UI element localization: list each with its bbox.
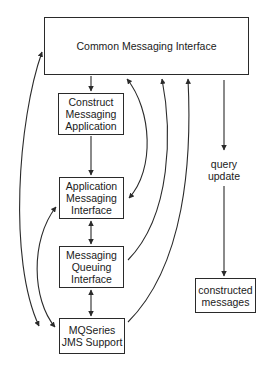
node-line: Messaging	[66, 249, 117, 261]
node-line: JMS Support	[62, 336, 123, 348]
label-line: query	[200, 158, 248, 170]
arrow-ami-jms-inner	[37, 207, 56, 327]
node-line: constructed	[198, 284, 252, 296]
node-line: MQSeries	[62, 324, 123, 336]
common-messaging-interface-box: Common Messaging Interface	[44, 17, 249, 75]
node-line: Application	[66, 180, 117, 192]
node-line: Application	[65, 120, 116, 132]
messaging-queuing-interface-box: Messaging Queuing Interface	[59, 246, 124, 288]
node-line: Messaging	[66, 192, 117, 204]
constructed-messages-box: constructed messages	[195, 278, 256, 313]
node-line: messages	[198, 296, 252, 308]
arrow-jms-common	[128, 79, 189, 322]
mqseries-jms-support-box: MQSeries JMS Support	[59, 318, 125, 354]
node-line: Interface	[66, 273, 117, 285]
arrow-common-ami-right	[127, 79, 147, 198]
arrow-mqi-common	[128, 79, 167, 260]
node-line: Interface	[66, 204, 117, 216]
node-line: Messaging	[65, 108, 116, 120]
query-update-label: query update	[200, 158, 248, 182]
node-line: Queuing	[66, 261, 117, 273]
application-messaging-interface-box: Application Messaging Interface	[59, 177, 124, 219]
node-line: Construct	[65, 96, 116, 108]
label-line: update	[200, 170, 248, 182]
construct-messaging-application-box: Construct Messaging Application	[58, 93, 124, 135]
common-messaging-interface-label: Common Messaging Interface	[76, 40, 216, 52]
